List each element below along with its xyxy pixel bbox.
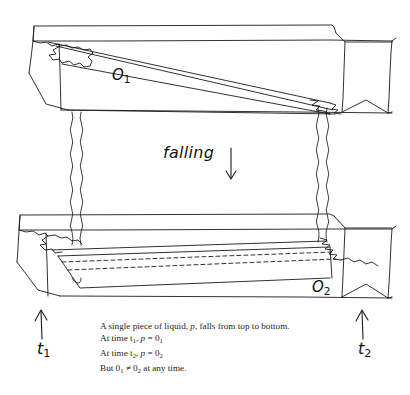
label-t2: t2 (358, 341, 371, 359)
caption-line-4: But 01 ≠ 02 at any time. (100, 362, 330, 377)
t2-arrow-up-icon (356, 310, 368, 339)
figure-canvas: O1 O2 falling t1 t2 A single piece of li… (0, 0, 410, 395)
label-o2: O2 (312, 280, 331, 296)
label-t1: t1 (37, 341, 50, 359)
figure-caption: A single piece of liquid, p, falls from … (100, 320, 330, 377)
falling-arrow-down-icon (226, 148, 236, 179)
t1-arrow-up-icon (35, 310, 47, 339)
caption-line-2: At time t1, p = 01 (100, 332, 330, 347)
liquid-stream-right (316, 108, 329, 242)
caption-line-3: At time t2, p = 02 (100, 347, 330, 362)
top-vessel (29, 25, 396, 114)
label-o1: O1 (112, 68, 131, 84)
bottom-vessel (17, 214, 396, 298)
label-falling: falling (163, 145, 214, 161)
caption-line-1: A single piece of liquid, p, falls from … (100, 320, 330, 332)
liquid-stream-left (70, 112, 83, 283)
